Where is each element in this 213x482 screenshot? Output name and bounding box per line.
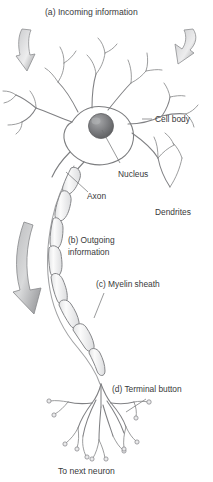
- myelin-sheath-label: (c) Myelin sheath: [96, 279, 160, 289]
- cell-body-label: Cell body: [155, 114, 191, 124]
- terminal-button-arbor: [47, 384, 151, 461]
- nucleus-sphere: [89, 114, 114, 139]
- terminal-button-label: (d) Terminal button: [112, 384, 182, 394]
- neuron-diagram-figure: (a) Incoming information: [0, 0, 213, 482]
- neuron-illustration: (a) Incoming information: [0, 0, 213, 482]
- incoming-arrow-left: [16, 29, 35, 71]
- incoming-information-label: (a) Incoming information: [45, 7, 138, 17]
- myelin-sheath-leader: [94, 293, 104, 318]
- to-next-neuron-label: To next neuron: [58, 466, 115, 476]
- incoming-arrow-right: [175, 29, 196, 64]
- dendrites-label: Dendrites: [155, 207, 191, 217]
- axon-label: Axon: [87, 191, 106, 201]
- outgoing-information-label-line1: (b) Outgoing: [68, 235, 115, 245]
- outgoing-arrow: [13, 222, 41, 314]
- outgoing-information-label-line2: information: [68, 247, 110, 257]
- nucleus-leader: [102, 130, 120, 163]
- nucleus-label: Nucleus: [118, 169, 148, 179]
